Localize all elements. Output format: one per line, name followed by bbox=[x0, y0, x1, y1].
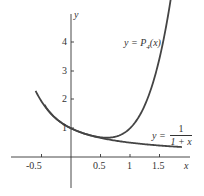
x-tick-label: 0.5 bbox=[93, 161, 106, 171]
x-tick-label: 1 bbox=[127, 161, 132, 171]
chart: y x -0.5 0.5 1 1.5 1 2 3 4 y = P4(x) y =… bbox=[0, 0, 204, 196]
reciprocal-label-prefix: y = bbox=[152, 131, 166, 141]
y-tick-label: 3 bbox=[62, 66, 67, 76]
y-tick-label: 1 bbox=[62, 123, 67, 133]
reciprocal-label-numerator: 1 bbox=[170, 124, 192, 134]
p4-curve bbox=[36, 0, 175, 138]
x-tick-label: 1.5 bbox=[152, 161, 165, 171]
x-tick-label: -0.5 bbox=[26, 161, 42, 171]
y-axis-label: y bbox=[74, 10, 78, 20]
x-axis-label: x bbox=[184, 161, 188, 171]
y-tick-label: 2 bbox=[62, 94, 67, 104]
reciprocal-label-denominator: 1 + x bbox=[168, 137, 194, 147]
p4-curve-label: y = P4(x) bbox=[124, 38, 161, 51]
y-tick-label: 4 bbox=[62, 37, 67, 47]
